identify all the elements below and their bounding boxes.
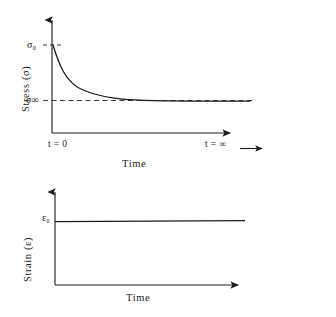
stress-chart-svg bbox=[0, 0, 336, 180]
strain-tick-label-epsilon-zero: ε₀ bbox=[42, 212, 50, 223]
stress-marker-t-zero: t = 0 bbox=[48, 139, 68, 149]
stress-marker-t-infinity: t = ∞ bbox=[205, 139, 227, 149]
chart-panel-strain: Strain (ε) ε₀ Time bbox=[0, 180, 336, 317]
chart-panel-stress: Stress (σ) σ₀ σ∞ t = 0 t = ∞ Time bbox=[0, 0, 336, 180]
stress-tick-label-sigma-infinity: σ∞ bbox=[26, 94, 39, 105]
stress-y-axis-title: Stress (σ) bbox=[20, 66, 31, 112]
stress-x-axis-title: Time bbox=[122, 158, 146, 169]
strain-constant-level-line bbox=[55, 221, 245, 222]
strain-y-axis-title: Strain (ε) bbox=[22, 237, 33, 282]
stress-relaxation-curve bbox=[53, 45, 250, 101]
stress-tick-label-sigma-zero: σ₀ bbox=[27, 39, 36, 50]
strain-x-axis-title: Time bbox=[126, 292, 150, 303]
figure-stress-relaxation: Stress (σ) σ₀ σ∞ t = 0 t = ∞ Time bbox=[0, 0, 336, 317]
strain-chart-svg bbox=[0, 180, 336, 317]
